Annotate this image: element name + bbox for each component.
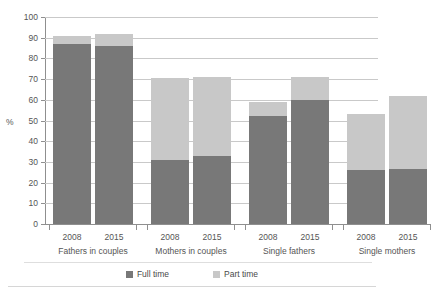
bar-single-fathers-2008[interactable] [249, 102, 287, 224]
y-tick-label-100: 100 [12, 13, 38, 22]
y-tick-label-70: 70 [12, 75, 38, 84]
y-tick-label-60: 60 [12, 96, 38, 105]
y-tick-label-30: 30 [12, 158, 38, 167]
y-tick-mark-70 [41, 79, 45, 80]
legend-swatch-icon [213, 271, 220, 278]
y-tick-label-40: 40 [12, 137, 38, 146]
segment-part-time[interactable] [389, 96, 427, 169]
segment-full-time[interactable] [291, 100, 329, 224]
segment-full-time[interactable] [249, 116, 287, 224]
x-group-label-single-mothers: Single mothers [333, 246, 435, 256]
y-tick-mark-60 [41, 100, 45, 101]
y-tick-mark-10 [41, 203, 45, 204]
legend-divider [24, 262, 372, 263]
x-tick-year-fathers-in-couples-2008: 2008 [51, 232, 93, 242]
segment-part-time[interactable] [249, 102, 287, 116]
footer-divider [8, 286, 376, 287]
group-bracket [147, 224, 235, 230]
segment-full-time[interactable] [193, 156, 231, 224]
segment-full-time[interactable] [347, 170, 385, 224]
y-tick-label-20: 20 [12, 179, 38, 188]
y-tick-label-90: 90 [12, 34, 38, 43]
x-group-label-single-fathers: Single fathers [235, 246, 343, 256]
group-bracket [245, 224, 333, 230]
legend-label: Part time [224, 269, 258, 279]
segment-part-time[interactable] [95, 34, 133, 46]
y-tick-mark-40 [41, 141, 45, 142]
plot-area [45, 17, 378, 224]
segment-part-time[interactable] [151, 78, 189, 160]
group-bracket [343, 224, 431, 230]
bar-mothers-in-couples-2015[interactable] [193, 77, 231, 224]
y-tick-label-80: 80 [12, 54, 38, 63]
group-bracket [49, 224, 137, 230]
y-tick-mark-90 [41, 38, 45, 39]
segment-full-time[interactable] [95, 46, 133, 224]
legend-swatch-icon [126, 271, 133, 278]
x-tick-year-mothers-in-couples-2015: 2015 [191, 232, 233, 242]
x-axis: 20082015Fathers in couples20082015Mother… [45, 224, 378, 264]
y-tick-label-10: 10 [12, 199, 38, 208]
x-group-label-fathers-in-couples: Fathers in couples [39, 246, 147, 256]
chart-legend: Full timePart time [0, 269, 384, 279]
bar-single-fathers-2015[interactable] [291, 77, 329, 224]
segment-part-time[interactable] [347, 114, 385, 170]
y-tick-mark-50 [41, 121, 45, 122]
bar-single-mothers-2015[interactable] [389, 96, 427, 224]
legend-item-part-time[interactable]: Part time [213, 269, 258, 279]
segment-full-time[interactable] [53, 44, 91, 224]
segment-full-time[interactable] [389, 169, 427, 224]
y-tick-mark-80 [41, 58, 45, 59]
x-tick-year-single-fathers-2015: 2015 [289, 232, 331, 242]
bar-fathers-in-couples-2008[interactable] [53, 36, 91, 224]
segment-part-time[interactable] [53, 36, 91, 44]
gridline-100 [45, 17, 378, 18]
segment-part-time[interactable] [193, 77, 231, 156]
bar-single-mothers-2008[interactable] [347, 114, 385, 224]
y-tick-mark-30 [41, 162, 45, 163]
y-tick-mark-20 [41, 183, 45, 184]
x-group-label-mothers-in-couples: Mothers in couples [137, 246, 245, 256]
x-tick-year-mothers-in-couples-2008: 2008 [149, 232, 191, 242]
y-tick-label-0: 0 [12, 220, 38, 229]
x-tick-year-fathers-in-couples-2015: 2015 [93, 232, 135, 242]
segment-part-time[interactable] [291, 77, 329, 100]
bar-mothers-in-couples-2008[interactable] [151, 78, 189, 224]
legend-label: Full time [137, 269, 169, 279]
y-tick-mark-100 [41, 17, 45, 18]
x-tick-year-single-fathers-2008: 2008 [247, 232, 289, 242]
x-tick-year-single-mothers-2008: 2008 [345, 232, 387, 242]
segment-full-time[interactable] [151, 160, 189, 224]
bar-fathers-in-couples-2015[interactable] [95, 34, 133, 224]
y-tick-mark-0 [41, 224, 45, 225]
legend-item-full-time[interactable]: Full time [126, 269, 169, 279]
y-tick-label-50: 50 [12, 117, 38, 126]
x-tick-year-single-mothers-2015: 2015 [387, 232, 429, 242]
